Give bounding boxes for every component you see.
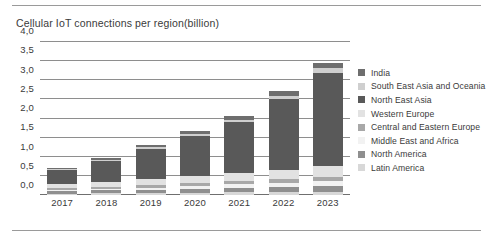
bar-segment [180,193,210,195]
x-axis-tick-label: 2017 [47,197,77,208]
y-axis-tick-label: 2,5 [20,82,34,93]
plot-area: 0,00,51,01,52,02,53,03,54,0 [40,42,350,195]
bar-segment [313,192,343,195]
x-axis-tick-label: 2018 [91,197,121,208]
bar-segment [313,73,343,167]
bar-column [91,42,121,195]
bar-segment [136,193,166,195]
legend-swatch-icon [358,96,365,103]
legend-item[interactable]: Western Europe [358,107,486,121]
legend-item[interactable]: North East Asia [358,93,486,107]
legend-item[interactable]: Middle East and Africa [358,134,486,148]
chart-figure: Cellular IoT connections per region(bill… [0,0,493,238]
bar-column [47,42,77,195]
x-axis-tick-label: 2020 [180,197,210,208]
x-axis-tick-label: 2023 [313,197,343,208]
y-axis-tick-label: 2,0 [20,102,34,113]
y-axis-tick-label: 1,0 [20,140,34,151]
legend-swatch-icon [358,110,365,117]
bar-segment [136,149,166,180]
bar-column [180,42,210,195]
legend-item-label: Latin America [371,163,424,173]
bar-segment [313,166,343,176]
legend-item-label: Central and Eastern Europe [371,122,480,132]
bar-segment [269,99,299,170]
bar-segment [47,170,77,185]
chart-title: Cellular IoT connections per region(bill… [16,17,219,29]
y-axis-tick-label: 4,0 [20,25,34,36]
bar-segment [224,192,254,195]
bar-segment [224,173,254,181]
legend-item[interactable]: India [358,66,486,80]
top-divider [12,5,481,6]
bar-segment [180,136,210,176]
y-axis-tick-label: 3,5 [20,44,34,55]
x-axis-labels: 2017201820192020202120222023 [40,197,350,208]
bar-column [224,42,254,195]
bar-segment [224,122,254,172]
x-axis-tick-label: 2019 [136,197,166,208]
legend-swatch-icon [358,151,365,158]
legend-item-label: Western Europe [371,109,434,119]
bar-segment [180,176,210,183]
y-axis-tick-label: 0,5 [20,159,34,170]
legend-swatch-icon [358,124,365,131]
legend-item[interactable]: Latin America [358,161,486,175]
bar-segment [47,194,77,195]
legend-item[interactable]: Central and Eastern Europe [358,120,486,134]
bar-segment [91,161,121,182]
y-axis-tick-label: 0,0 [20,179,34,190]
legend-item-label: South East Asia and Oceania [371,81,486,91]
legend-item-label: North East Asia [371,95,432,105]
bar-column [269,42,299,195]
bar-column [136,42,166,195]
x-axis-tick-label: 2022 [269,197,299,208]
legend-swatch-icon [358,69,365,76]
y-axis-tick-label: 1,5 [20,121,34,132]
bar-group [40,42,350,195]
legend-item-label: India [371,68,390,78]
legend-item[interactable]: South East Asia and Oceania [358,80,486,94]
legend-swatch-icon [358,137,365,144]
y-axis-tick-label: 3,0 [20,63,34,74]
bar-segment [269,192,299,195]
chart-legend: IndiaSouth East Asia and OceaniaNorth Ea… [358,66,486,175]
legend-swatch-icon [358,83,365,90]
bottom-divider [12,230,481,231]
bar-segment [269,170,299,179]
x-axis-tick-label: 2021 [224,197,254,208]
legend-item-label: Middle East and Africa [371,136,459,146]
bar-column [313,42,343,195]
legend-swatch-icon [358,164,365,171]
legend-item[interactable]: North America [358,148,486,162]
legend-item-label: North America [371,149,427,159]
bar-segment [91,193,121,195]
